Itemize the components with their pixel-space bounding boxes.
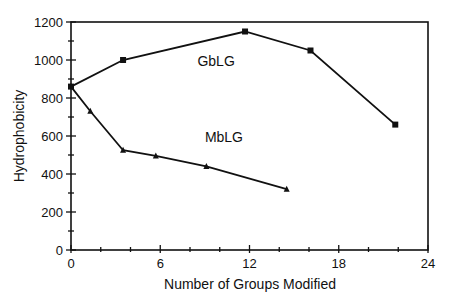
y-tick-label: 400	[41, 167, 63, 182]
x-tick-label: 12	[242, 256, 256, 271]
square-marker	[392, 122, 398, 128]
x-axis: 06121824	[67, 245, 435, 271]
series-group: GbLGMbLG	[68, 29, 398, 192]
series-mblg: MbLG	[68, 83, 290, 192]
square-marker	[307, 48, 313, 54]
y-tick-label: 1000	[34, 53, 63, 68]
x-tick-label: 0	[67, 256, 74, 271]
series-gblg: GbLG	[68, 29, 398, 128]
series-label: MbLG	[205, 129, 243, 145]
y-tick-label: 200	[41, 205, 63, 220]
line-chart: 020040060080010001200 06121824 GbLGMbLG …	[0, 0, 449, 302]
square-marker	[242, 29, 248, 35]
x-tick-label: 18	[332, 256, 346, 271]
series-line	[71, 32, 395, 125]
x-axis-title: Number of Groups Modified	[164, 276, 336, 292]
series-label: GbLG	[197, 53, 234, 69]
y-tick-label: 800	[41, 91, 63, 106]
y-tick-label: 600	[41, 129, 63, 144]
y-tick-label: 0	[56, 243, 63, 258]
y-axis: 020040060080010001200	[34, 15, 76, 258]
series-line	[71, 87, 287, 190]
y-axis-title: Hydrophobicity	[11, 90, 27, 183]
y-tick-label: 1200	[34, 15, 63, 30]
x-tick-label: 24	[421, 256, 435, 271]
x-tick-label: 6	[157, 256, 164, 271]
plot-border	[71, 22, 428, 250]
square-marker	[120, 57, 126, 63]
plot-frame	[71, 22, 428, 250]
